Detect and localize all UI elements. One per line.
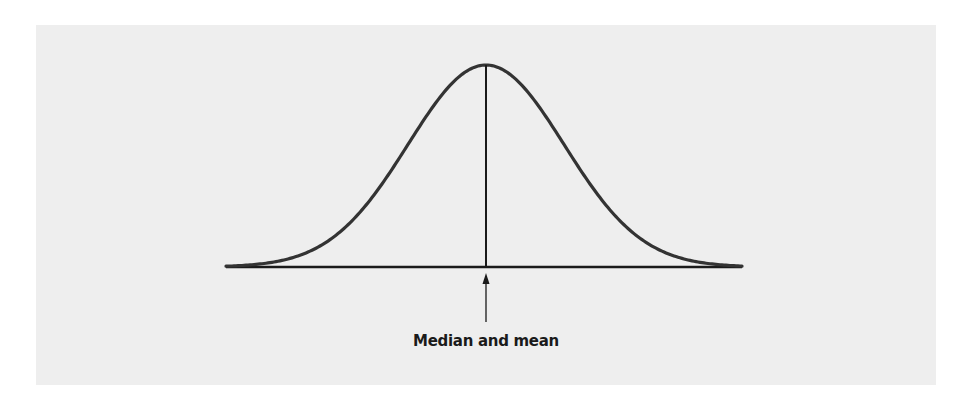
arrow-up-icon [483, 273, 490, 322]
median-mean-label: Median and mean [413, 332, 559, 350]
normal-distribution-diagram: Median and mean [0, 0, 955, 412]
bell-curve [226, 65, 742, 266]
